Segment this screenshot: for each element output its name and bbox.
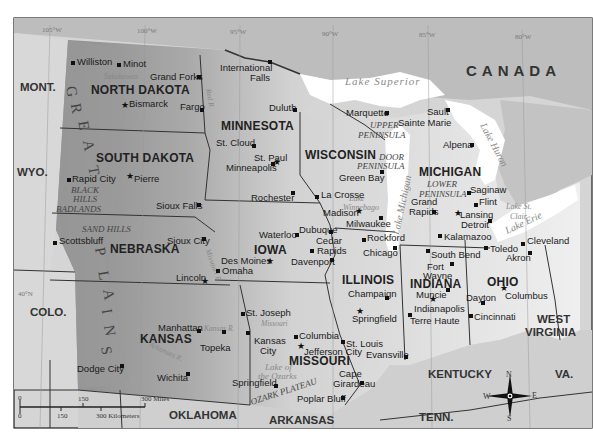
capital-star-icon: ★ — [201, 277, 209, 286]
state-label: MICHIGAN — [419, 166, 481, 178]
city-label: Columbus — [505, 291, 548, 301]
compass-s: S — [507, 415, 511, 423]
city-label: Rapid City — [72, 174, 116, 184]
city-dot-icon — [474, 203, 478, 207]
scale-km-150: 150 — [57, 413, 68, 420]
city-label: Davenport — [291, 257, 335, 267]
city-label: Topeka — [200, 343, 231, 353]
city-dot-icon — [67, 178, 71, 182]
city-dot-icon — [291, 191, 295, 195]
city-dot-icon — [404, 355, 408, 359]
neighbor-label: COLO. — [30, 307, 66, 319]
midwest-map: CANADA 105°W 100°W 95°W 90°W 85°W 80°W 4… — [0, 0, 593, 447]
city-dot-icon — [186, 372, 190, 376]
capital-star-icon: ★ — [266, 257, 274, 266]
city-label: Indianapolis — [414, 304, 465, 314]
scale-km-300: 300 Kilometers — [96, 413, 139, 420]
city-label: Minot — [123, 59, 146, 69]
city-label: Milwaukee — [346, 219, 391, 229]
city-label: Terre Haute — [410, 316, 460, 326]
city-dot-icon — [53, 241, 57, 245]
city-dot-icon — [379, 216, 383, 220]
city-dot-icon — [438, 234, 442, 238]
city-dot-icon — [521, 242, 525, 246]
city-label: Marquette — [346, 108, 389, 118]
city-dot-icon — [393, 246, 397, 250]
region-label: LOWER — [427, 180, 457, 189]
city-label: Girardeau — [333, 379, 375, 389]
city-label: Kalamazoo — [444, 232, 492, 242]
river-label: Sakakawea — [104, 73, 138, 81]
compass-w: W — [483, 393, 491, 401]
city-dot-icon — [197, 203, 201, 207]
city-label: Sioux Falls — [156, 201, 202, 211]
region-label: BADLANDS — [56, 205, 101, 214]
neighbor-label: KENTUCKY — [428, 369, 492, 381]
city-label: Cincinnati — [474, 312, 516, 322]
latitude-label: 40°N — [18, 291, 33, 298]
scale-km-0: 0 — [18, 413, 22, 420]
neighbor-label: WEST — [537, 314, 570, 326]
city-dot-icon — [252, 144, 256, 148]
city-label: Wichita — [157, 373, 188, 383]
city-label: Evansville — [366, 350, 409, 360]
city-dot-icon — [470, 143, 474, 147]
neighbor-label: WYO. — [17, 167, 48, 179]
city-dot-icon — [488, 219, 492, 223]
city-dot-icon — [310, 249, 314, 253]
city-dot-icon — [341, 396, 345, 400]
water-label: Lake St. — [506, 203, 532, 211]
city-label: South Bend — [431, 250, 481, 260]
longitude-label: 105°W — [42, 27, 62, 34]
longitude-label: 85°W — [419, 32, 435, 39]
city-dot-icon — [271, 162, 275, 166]
longitude-label: 100°W — [137, 28, 157, 35]
city-dot-icon — [469, 314, 473, 318]
city-dot-icon — [341, 340, 345, 344]
neighbor-label: VIRGINIA — [525, 327, 576, 339]
region-label: UPPER — [370, 121, 399, 130]
water-label: Lake Superior — [345, 76, 421, 87]
state-label: ILLINOIS — [342, 274, 394, 286]
neighbor-label: ARKANSAS — [269, 415, 334, 427]
capital-star-icon: ★ — [355, 207, 363, 216]
water-label: Clair — [510, 213, 527, 221]
city-dot-icon — [315, 195, 319, 199]
neighbor-label: MONT. — [20, 82, 56, 94]
city-label: Champaign — [348, 289, 397, 299]
state-label: NORTH DAKOTA — [91, 84, 190, 96]
city-label: Scottsbluff — [59, 236, 103, 246]
scale-miles-0: 0 — [18, 395, 22, 402]
city-dot-icon — [484, 246, 488, 250]
neighbor-label: VA. — [555, 369, 573, 381]
city-dot-icon — [241, 312, 245, 316]
longitude-label: 95°W — [230, 29, 246, 36]
city-label: Wayne — [423, 271, 452, 281]
country-label-canada: CANADA — [466, 63, 561, 78]
city-dot-icon — [467, 191, 471, 195]
city-label: Grand Forks — [150, 72, 203, 82]
city-dot-icon — [117, 63, 121, 67]
city-label: Dodge City — [77, 364, 124, 374]
city-label: Rockford — [367, 233, 405, 243]
river-label: Missouri — [261, 320, 288, 328]
city-label: Pierre — [134, 174, 159, 184]
state-label: KANSAS — [140, 333, 192, 345]
city-dot-icon — [120, 364, 124, 368]
scale-miles-300: 300 Miles — [141, 396, 169, 403]
capital-star-icon: ★ — [297, 342, 305, 351]
city-dot-icon — [446, 108, 450, 112]
city-dot-icon — [481, 301, 485, 305]
city-dot-icon — [222, 330, 226, 334]
city-dot-icon — [426, 249, 430, 253]
city-label: Springfield — [232, 378, 277, 388]
city-label: Omaha — [222, 266, 253, 276]
city-dot-icon — [200, 108, 204, 112]
city-label: Flint — [479, 197, 497, 207]
city-dot-icon — [432, 210, 436, 214]
longitude-label: 80°W — [515, 34, 531, 41]
capital-star-icon: ★ — [121, 101, 129, 110]
city-label: La Crosse — [321, 190, 364, 200]
city-dot-icon — [274, 384, 278, 388]
city-dot-icon — [202, 237, 206, 241]
